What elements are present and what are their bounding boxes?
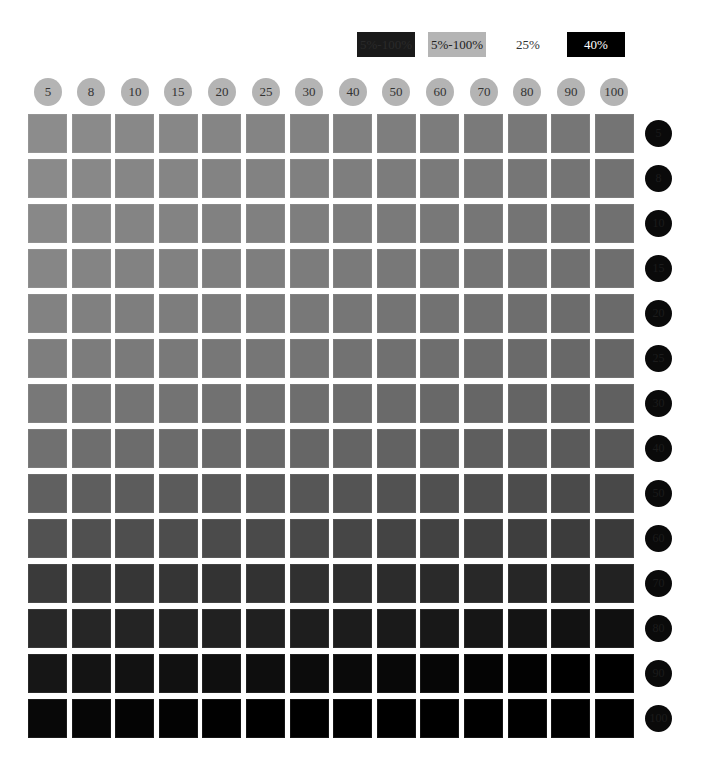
tone-cell: [159, 249, 198, 288]
tone-cell: [290, 339, 329, 378]
column-header-badge: 70: [470, 78, 498, 106]
tone-cell: [72, 384, 111, 423]
tone-cell: [202, 204, 241, 243]
tone-cell: [595, 519, 634, 558]
tone-cell: [115, 294, 154, 333]
tone-cell: [464, 249, 503, 288]
legend-item: 25%: [499, 32, 557, 57]
tone-cell: [377, 429, 416, 468]
tone-cell: [159, 474, 198, 513]
tone-cell: [159, 384, 198, 423]
tone-cell: [290, 294, 329, 333]
column-header-badge: 90: [557, 78, 585, 106]
tone-cell: [72, 564, 111, 603]
tone-cell: [28, 429, 67, 468]
column-header-badge: 10: [121, 78, 149, 106]
tone-cell: [28, 249, 67, 288]
tone-cell: [551, 249, 590, 288]
tone-cell: [246, 384, 285, 423]
tone-cell: [159, 159, 198, 198]
tone-cell: [159, 519, 198, 558]
tone-cell: [551, 294, 590, 333]
tone-cell: [28, 654, 67, 693]
tone-cell: [464, 114, 503, 153]
tone-cell: [377, 384, 416, 423]
tone-cell: [464, 429, 503, 468]
tone-cell: [508, 159, 547, 198]
tone-cell: [377, 294, 416, 333]
tone-cell: [464, 654, 503, 693]
tone-cell: [333, 249, 372, 288]
tone-cell: [159, 339, 198, 378]
tone-cell: [72, 474, 111, 513]
tone-cell: [202, 609, 241, 648]
tone-cell: [464, 564, 503, 603]
tone-cell: [159, 429, 198, 468]
tone-cell: [115, 339, 154, 378]
row-header-badge: 100: [645, 705, 672, 732]
tone-cell: [290, 429, 329, 468]
column-header-badge: 5: [34, 78, 62, 106]
tone-cell: [72, 114, 111, 153]
tone-cell: [508, 249, 547, 288]
tone-cell: [246, 294, 285, 333]
tone-cell: [420, 699, 459, 738]
tone-cell: [508, 564, 547, 603]
column-header-badge: 60: [426, 78, 454, 106]
row-header-badge: 15: [645, 255, 672, 282]
tone-cell: [115, 699, 154, 738]
tone-cell: [115, 114, 154, 153]
tone-cell: [72, 699, 111, 738]
tone-cell: [595, 654, 634, 693]
tone-cell: [551, 204, 590, 243]
tone-cell: [420, 609, 459, 648]
tone-cell: [551, 654, 590, 693]
tone-cell: [246, 699, 285, 738]
tone-cell: [595, 294, 634, 333]
tone-cell: [508, 114, 547, 153]
column-header-badge: 30: [295, 78, 323, 106]
tone-cell: [28, 159, 67, 198]
tone-cell: [464, 609, 503, 648]
tone-cell: [28, 294, 67, 333]
tone-cell: [28, 384, 67, 423]
tone-cell: [508, 519, 547, 558]
tone-cell: [551, 429, 590, 468]
tone-cell: [202, 699, 241, 738]
row-header-badge: 40: [645, 435, 672, 462]
tone-cell: [333, 384, 372, 423]
tone-cell: [420, 654, 459, 693]
column-header-badge: 25: [252, 78, 280, 106]
tone-cell: [290, 519, 329, 558]
tone-cell: [333, 654, 372, 693]
tone-cell: [377, 339, 416, 378]
column-header-badge: 80: [513, 78, 541, 106]
tone-cell: [290, 609, 329, 648]
tone-cell: [202, 249, 241, 288]
tone-cell: [464, 339, 503, 378]
tone-cell: [508, 429, 547, 468]
tone-cell: [508, 609, 547, 648]
tone-cell: [333, 339, 372, 378]
tone-cell: [246, 474, 285, 513]
tone-cell: [420, 384, 459, 423]
row-header-badge: 25: [645, 345, 672, 372]
tone-cell: [28, 204, 67, 243]
tone-cell: [464, 204, 503, 243]
tone-cell: [115, 654, 154, 693]
tone-cell: [551, 699, 590, 738]
row-header-badge: 5: [645, 120, 672, 147]
tone-cell: [508, 699, 547, 738]
tone-cell: [551, 519, 590, 558]
row-header-badge: 30: [645, 390, 672, 417]
tone-cell: [595, 429, 634, 468]
tone-cell: [290, 564, 329, 603]
tone-cell: [333, 519, 372, 558]
tone-cell: [246, 114, 285, 153]
tone-cell: [333, 564, 372, 603]
tone-cell: [28, 114, 67, 153]
tone-cell: [159, 204, 198, 243]
column-header-badge: 20: [208, 78, 236, 106]
tone-cell: [595, 204, 634, 243]
tone-cell: [115, 564, 154, 603]
